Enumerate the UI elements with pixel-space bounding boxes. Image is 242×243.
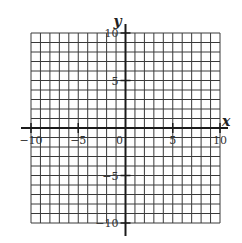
y-tick-label: −5	[102, 170, 118, 183]
x-tick-label: 10	[213, 134, 227, 147]
y-tick-label: 5	[112, 75, 119, 88]
x-tick-label: −10	[19, 134, 42, 147]
x-tick-label: 5	[169, 134, 176, 147]
x-axis-label: x	[221, 113, 231, 129]
y-tick-label: −10	[95, 217, 118, 230]
coordinate-plane: −10−50510−10−5510 x y	[0, 0, 242, 243]
y-axis-label: y	[113, 13, 123, 29]
x-tick-label: 0	[116, 134, 123, 147]
x-tick-label: −5	[70, 134, 86, 147]
